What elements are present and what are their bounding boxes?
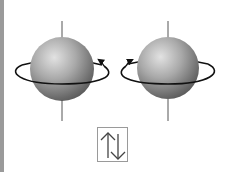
- spin-down-particle: [121, 21, 214, 121]
- right-sphere-icon: [137, 37, 199, 99]
- spin-up-particle: [16, 21, 109, 121]
- left-sphere-icon: [30, 37, 94, 101]
- spin-pair-symbol-box: ↑↓: [97, 127, 128, 162]
